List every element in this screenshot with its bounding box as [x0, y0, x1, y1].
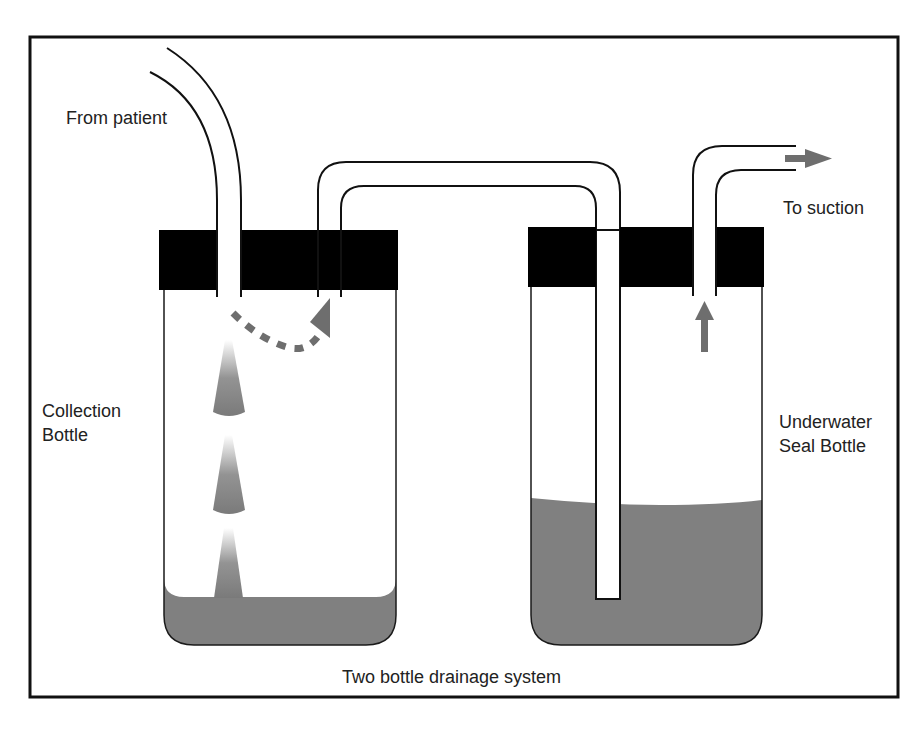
drip-cone-2: [213, 435, 245, 514]
collection-bottle-label-2: Bottle: [42, 424, 88, 446]
diagram-title: Two bottle drainage system: [342, 666, 561, 688]
seal-bottle-label-1: Underwater: [779, 411, 872, 433]
drip-cone-1: [213, 340, 245, 416]
collection-bottle-label-1: Collection: [42, 400, 121, 422]
collection-bottle: [159, 230, 398, 645]
suction-up-arrow-head: [695, 301, 714, 320]
to-suction-label: To suction: [783, 197, 864, 219]
underwater-seal-bottle: [528, 227, 764, 645]
seal-bottle-cap: [528, 227, 764, 287]
air-flow-arrowhead: [310, 298, 330, 338]
seal-bottle-label-2: Seal Bottle: [779, 435, 866, 457]
air-flow-dashed-arrow: [233, 313, 322, 349]
seal-fluid: [531, 498, 762, 645]
drip-cone-3: [214, 528, 243, 598]
suction-right-arrow-shaft: [785, 155, 807, 162]
collection-bottle-cap: [159, 230, 398, 290]
diagram-frame: [30, 37, 898, 697]
from-patient-label: From patient: [66, 107, 167, 129]
collection-fluid: [164, 578, 396, 645]
suction-up-arrow-shaft: [701, 318, 708, 352]
suction-right-arrow-head: [805, 149, 832, 168]
seal-tube-end: [596, 230, 620, 599]
